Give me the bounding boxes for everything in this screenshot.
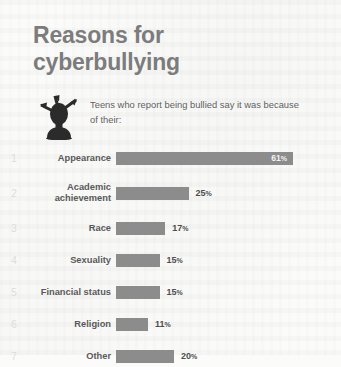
row-label: Academicachievement <box>28 182 116 204</box>
table-row: 7Other20% <box>0 346 341 366</box>
bar-track: 25% <box>116 187 341 200</box>
table-row: 5Financial status15% <box>0 282 341 302</box>
percent-sign: % <box>281 155 287 162</box>
row-rank: 1 <box>0 153 28 164</box>
bar-value-label: 20% <box>174 351 197 361</box>
bar-track: 11% <box>116 318 341 331</box>
percent-sign: % <box>182 225 188 232</box>
percent-sign: % <box>191 353 197 360</box>
percent-sign: % <box>164 321 170 328</box>
page-title: Reasons for cyberbullying <box>33 22 293 76</box>
bar <box>116 318 148 331</box>
row-rank: 3 <box>0 223 28 234</box>
table-row: 3Race17% <box>0 218 341 238</box>
row-rank: 5 <box>0 287 28 298</box>
bar-track: 15% <box>116 254 341 267</box>
percent-sign: % <box>177 289 183 296</box>
row-label: Race <box>28 223 116 234</box>
row-rank: 7 <box>0 351 28 362</box>
bar-value-label: 17% <box>165 223 188 233</box>
row-label: Religion <box>28 319 116 330</box>
bullied-head-arrows-icon <box>38 94 80 140</box>
row-label: Sexuality <box>28 255 116 266</box>
bar-value-label: 61% <box>271 153 293 163</box>
bar-value-label: 15% <box>160 255 183 265</box>
bar <box>116 350 174 363</box>
bar <box>116 222 165 235</box>
bar <box>116 187 189 200</box>
bar-value-label: 11% <box>148 319 171 329</box>
bar-track: 20% <box>116 350 341 363</box>
intro-block: Teens who report being bullied say it wa… <box>38 92 318 140</box>
bar: 61% <box>116 152 293 165</box>
table-row: 4Sexuality15% <box>0 250 341 270</box>
page-title-line-2: cyberbullying <box>33 49 293 76</box>
bar-track: 61% <box>116 152 341 165</box>
bar-track: 17% <box>116 222 341 235</box>
bar <box>116 286 160 299</box>
table-row: 6Religion11% <box>0 314 341 334</box>
row-rank: 2 <box>0 188 28 199</box>
bar-value-label: 25% <box>189 188 212 198</box>
row-rank: 4 <box>0 255 28 266</box>
table-row: 1Appearance61% <box>0 148 341 168</box>
subtitle-text: Teens who report being bullied say it wa… <box>90 92 305 127</box>
percent-sign: % <box>177 257 183 264</box>
bar-chart: 1Appearance61%2Academicachievement25%3Ra… <box>0 148 341 367</box>
row-rank: 6 <box>0 319 28 330</box>
page-title-line-1: Reasons for <box>33 22 293 49</box>
bar-value-label: 15% <box>160 287 183 297</box>
row-label: Financial status <box>28 287 116 298</box>
row-label: Other <box>28 351 116 362</box>
bar-track: 15% <box>116 286 341 299</box>
table-row: 2Academicachievement25% <box>0 180 341 206</box>
row-label: Appearance <box>28 153 116 164</box>
bar <box>116 254 160 267</box>
percent-sign: % <box>206 190 212 197</box>
